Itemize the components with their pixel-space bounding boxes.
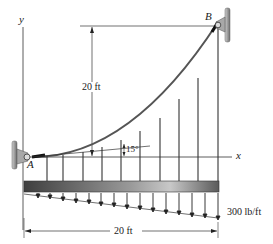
beam: [24, 181, 219, 192]
load-label: 300 lb/ft: [227, 207, 261, 217]
hangers: [47, 26, 218, 181]
cable-diagram: y x A B 20 ft 15° 300 lb/ft 20 ft: [0, 0, 273, 244]
load-envelope: [24, 194, 218, 218]
point-a-label: A: [27, 159, 34, 170]
support-b-icon: [215, 8, 230, 42]
y-axis-label: y: [19, 14, 24, 25]
load-arrows: [36, 193, 220, 220]
x-axis-label: x: [236, 150, 241, 161]
span-dimension-label: 20 ft: [114, 226, 133, 236]
point-b-label: B: [205, 11, 212, 22]
height-dimension-label: 20 ft: [82, 82, 101, 92]
cable-curve: [32, 22, 218, 157]
angle-label: 15°: [126, 145, 139, 154]
